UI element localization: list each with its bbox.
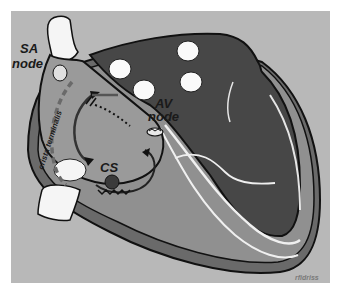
pulmonary-vein-opening [180,72,202,92]
credit-label: rfidriss [295,274,319,281]
pulmonary-vein-opening [109,59,131,79]
sa-node-label-line1: SA [20,41,38,56]
coronary-sinus-label: CS [100,160,118,175]
sa-node [53,65,67,81]
sa-node-label-line2: node [12,56,43,71]
av-node [147,128,163,136]
pulmonary-vein-opening [177,41,199,61]
pulmonary-vein-opening [133,80,155,100]
heart-diagram: SA node AV node CS crista terminalis rfi… [0,0,343,293]
av-node-label-line2: node [148,109,179,124]
coronary-sinus [105,175,119,189]
